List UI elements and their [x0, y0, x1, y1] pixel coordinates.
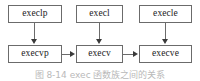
node-execve-label: execve — [152, 49, 179, 59]
edge-execl-to-execv-arrowhead-icon — [96, 39, 102, 44]
figure-caption: 图 8-14 exec 函数族之间的关系 — [0, 70, 200, 81]
node-execlp[interactable]: execlp — [8, 5, 62, 23]
node-execl-label: execl — [89, 9, 110, 19]
screenshot-root: execlp execl execle execvp execv execve — [0, 0, 200, 81]
node-execve[interactable]: execve — [139, 45, 192, 63]
exec-family-diagram: execlp execl execle execvp execv execve — [0, 0, 200, 81]
node-execl[interactable]: execl — [76, 5, 123, 23]
edge-execv-to-execve-arrowhead-icon — [133, 51, 138, 57]
node-execvp[interactable]: execvp — [8, 45, 62, 63]
node-execvp-label: execvp — [21, 49, 49, 59]
edge-execvp-to-execv-arrowhead-icon — [70, 51, 75, 57]
node-execle-label: execle — [153, 9, 178, 19]
node-execlp-label: execlp — [22, 9, 47, 19]
edge-execle-to-execve-arrowhead-icon — [162, 39, 168, 44]
edge-execl-to-execv-line — [99, 23, 100, 40]
edge-execlp-to-execvp-line — [34, 23, 35, 40]
edge-execlp-to-execvp-arrowhead-icon — [31, 39, 37, 44]
node-execle[interactable]: execle — [139, 5, 192, 23]
edge-execle-to-execve-line — [165, 23, 166, 40]
node-execv[interactable]: execv — [76, 45, 123, 63]
node-execv-label: execv — [88, 49, 111, 59]
